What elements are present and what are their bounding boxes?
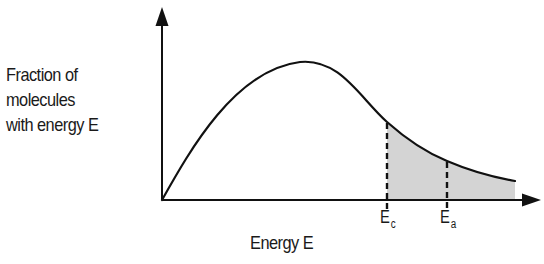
y-axis-label-line-1: Fraction of	[6, 62, 98, 87]
ec-label: Ec	[380, 207, 396, 228]
y-axis-arrow-icon	[156, 7, 169, 26]
y-axis-label-line-3: with energy E	[6, 112, 98, 137]
ea-label-base: E	[440, 207, 450, 227]
y-axis-label-line-2: molecules	[6, 87, 98, 112]
shaded-area-above-ec	[387, 122, 515, 200]
x-axis-arrow-icon	[522, 194, 541, 207]
y-axis-label: Fraction of molecules with energy E	[6, 62, 98, 137]
ea-label: Ea	[440, 207, 456, 228]
ec-label-subscript: c	[391, 217, 396, 231]
ea-label-subscript: a	[451, 217, 456, 231]
x-axis-label: Energy E	[250, 232, 313, 254]
ec-label-base: E	[380, 207, 390, 227]
